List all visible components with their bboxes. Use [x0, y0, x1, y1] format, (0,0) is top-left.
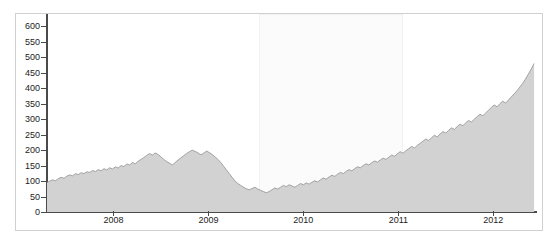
y-tick-label: 0: [35, 208, 40, 217]
y-tick-label: 400: [25, 84, 40, 93]
y-tick-label: 150: [25, 161, 40, 170]
plot-inner: [47, 14, 536, 212]
y-tick-mark: [41, 212, 47, 213]
y-tick-mark: [41, 119, 47, 120]
y-tick-mark: [41, 181, 47, 182]
x-tick-label: 2012: [483, 216, 503, 225]
plot-area: [47, 14, 536, 212]
y-axis-tick-group: 050100150200250300350400450500550600: [0, 0, 40, 241]
x-tick-mark: [493, 211, 494, 216]
x-tick-label: 2009: [198, 216, 218, 225]
y-tick-mark: [41, 150, 47, 151]
y-tick-label: 50: [30, 192, 40, 201]
y-tick-label: 550: [25, 37, 40, 46]
x-tick-label: 2011: [389, 216, 408, 225]
y-tick-label: 200: [25, 146, 40, 155]
y-tick-mark: [41, 197, 47, 198]
area-fill-path: [47, 64, 534, 213]
y-tick-label: 450: [25, 68, 40, 77]
y-tick-mark: [41, 135, 47, 136]
y-tick-label: 600: [25, 22, 40, 31]
y-tick-mark: [41, 73, 47, 74]
y-tick-label: 250: [25, 130, 40, 139]
y-tick-label: 350: [25, 99, 40, 108]
x-tick-mark: [208, 211, 209, 216]
y-tick-mark: [41, 104, 47, 105]
x-tick-mark: [303, 211, 304, 216]
x-tick-mark: [113, 211, 114, 216]
x-tick-label: 2010: [293, 216, 313, 225]
y-tick-mark: [41, 26, 47, 27]
chart-screenshot: 050100150200250300350400450500550600 200…: [0, 0, 555, 241]
y-tick-label: 500: [25, 53, 40, 62]
y-tick-mark: [41, 57, 47, 58]
y-tick-mark: [41, 88, 47, 89]
y-tick-label: 300: [25, 115, 40, 124]
y-tick-label: 100: [25, 177, 40, 186]
y-tick-mark: [41, 42, 47, 43]
x-tick-label: 2008: [103, 216, 123, 225]
y-tick-mark: [41, 166, 47, 167]
area-series: [47, 14, 536, 212]
x-tick-mark: [398, 211, 399, 216]
